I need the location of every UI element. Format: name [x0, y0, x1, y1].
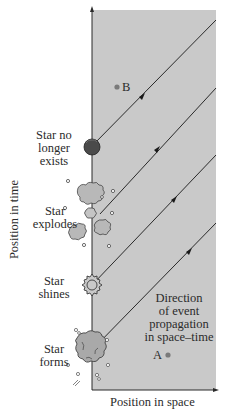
label-line: exists [24, 155, 84, 168]
point-a-marker [165, 352, 170, 357]
point-a-label: A [153, 348, 162, 363]
label-line: explodes [30, 218, 80, 231]
point-b-marker [114, 84, 119, 89]
y-axis-arrow-icon [90, 6, 94, 12]
label-line: shines [24, 288, 84, 301]
y-axis-label: Position in time [7, 170, 22, 270]
spacetime-diagram: Star no longer exists Star explodes Star… [0, 0, 226, 415]
dark-sphere-icon [84, 139, 100, 155]
propagation-annotation: Direction of event propagation in space–… [143, 292, 215, 344]
point-b-label: B [122, 80, 130, 95]
x-axis-label: Position in space [110, 395, 195, 410]
label-star-forms: Star forms [24, 343, 84, 369]
label-line: forms [24, 356, 84, 369]
label-star-no-longer-exists: Star no longer exists [24, 129, 84, 168]
annotation-line: in space–time [143, 331, 215, 344]
label-star-shines: Star shines [24, 275, 84, 301]
label-star-explodes: Star explodes [30, 205, 80, 231]
